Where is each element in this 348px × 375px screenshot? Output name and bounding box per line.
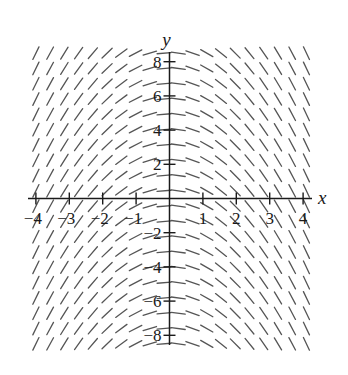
slope-segment: [230, 324, 240, 334]
slope-segment: [245, 231, 254, 242]
slope-segment: [186, 342, 199, 347]
slope-segment: [129, 172, 141, 178]
slope-segment: [47, 292, 54, 304]
slope-segment: [216, 95, 227, 104]
slope-segment: [245, 338, 254, 349]
slope-segment: [289, 215, 296, 227]
slope-segment: [88, 109, 97, 120]
slope-segment: [129, 295, 141, 301]
slope-segment: [88, 308, 97, 319]
slope-segment: [129, 264, 141, 270]
slope-segment: [102, 339, 112, 349]
slope-segment: [201, 340, 213, 347]
slope-segment: [116, 171, 127, 179]
slope-segment: [61, 246, 68, 258]
slope-segment: [171, 221, 185, 223]
slope-segment: [33, 230, 39, 243]
slope-segment: [216, 263, 227, 272]
slope-segment: [186, 326, 199, 331]
slope-segment: [47, 139, 54, 151]
slope-segment: [201, 96, 213, 103]
slope-segment: [201, 111, 213, 118]
slope-segment: [216, 309, 227, 318]
slope-segment: [274, 246, 281, 258]
slope-segment: [61, 185, 68, 197]
slope-segment: [303, 154, 309, 167]
slope-segment: [230, 155, 240, 165]
slope-segment: [143, 189, 156, 193]
slope-segment: [186, 234, 199, 239]
y-tick-label: 4: [153, 121, 162, 140]
slope-segment: [88, 277, 97, 288]
slope-segment: [33, 123, 39, 136]
slope-segment: [129, 157, 141, 163]
x-tick-label: 1: [199, 209, 208, 228]
slope-segment: [171, 328, 185, 330]
slope-segment: [303, 307, 309, 320]
slope-segment: [171, 98, 185, 100]
slope-segment: [143, 112, 156, 116]
slope-segment: [33, 261, 39, 274]
slope-segment: [116, 141, 127, 149]
slope-segment: [245, 140, 254, 151]
slope-segment: [186, 127, 199, 132]
slope-segment: [75, 63, 83, 74]
slope-segment: [201, 279, 213, 286]
slope-segment: [201, 294, 213, 301]
slope-segment: [33, 169, 39, 182]
slope-segment: [143, 250, 156, 254]
slope-segment: [245, 323, 254, 334]
y-tick-label: −2: [143, 224, 161, 243]
slope-segment: [33, 77, 39, 90]
slope-segment: [102, 140, 112, 150]
slope-segment: [171, 312, 185, 314]
slope-segment: [260, 231, 268, 243]
slope-segment: [33, 246, 39, 259]
slope-segment: [88, 323, 97, 334]
slope-segment: [260, 154, 268, 166]
slope-segment: [216, 110, 227, 119]
slope-segment: [245, 78, 254, 89]
slope-segment: [75, 231, 83, 242]
slope-segment: [260, 93, 268, 105]
slope-segment: [61, 261, 68, 273]
slope-segment: [216, 248, 227, 257]
slope-segment: [129, 341, 141, 347]
slope-segment: [274, 323, 281, 335]
plot-area: −4−3−2−11234−8−6−4−22468 x y: [0, 0, 348, 375]
slope-segment: [116, 49, 127, 57]
slope-segment: [260, 277, 268, 289]
slope-segment: [201, 50, 213, 57]
slope-segment: [230, 48, 240, 58]
slope-segment: [143, 82, 156, 86]
slope-segment: [201, 126, 213, 133]
slope-segment: [88, 140, 97, 151]
slope-segment: [33, 62, 39, 75]
slope-segment: [116, 309, 127, 317]
slope-segment: [102, 64, 112, 74]
slope-segment: [260, 109, 268, 121]
slope-segment: [61, 139, 68, 151]
slope-segment: [186, 51, 199, 56]
slope-segment: [274, 185, 281, 197]
slope-segment: [33, 154, 39, 167]
slope-segment: [289, 200, 296, 212]
slope-segment: [274, 231, 281, 243]
slope-segment: [33, 93, 39, 106]
slope-segment: [116, 64, 127, 72]
slope-segment: [75, 170, 83, 181]
slope-segment: [245, 308, 254, 319]
slope-segment: [61, 154, 68, 166]
slope-segment: [245, 94, 254, 105]
slope-segment: [186, 219, 199, 224]
slope-segment: [171, 251, 185, 253]
slope-segment: [303, 276, 309, 289]
slope-segment: [129, 142, 141, 148]
slope-segment: [274, 47, 281, 59]
slope-segment: [260, 262, 268, 274]
slope-segment: [289, 276, 296, 288]
slope-segment: [171, 52, 185, 54]
slope-segment: [260, 185, 268, 197]
slope-segment: [143, 311, 156, 315]
slope-segment: [289, 261, 296, 273]
